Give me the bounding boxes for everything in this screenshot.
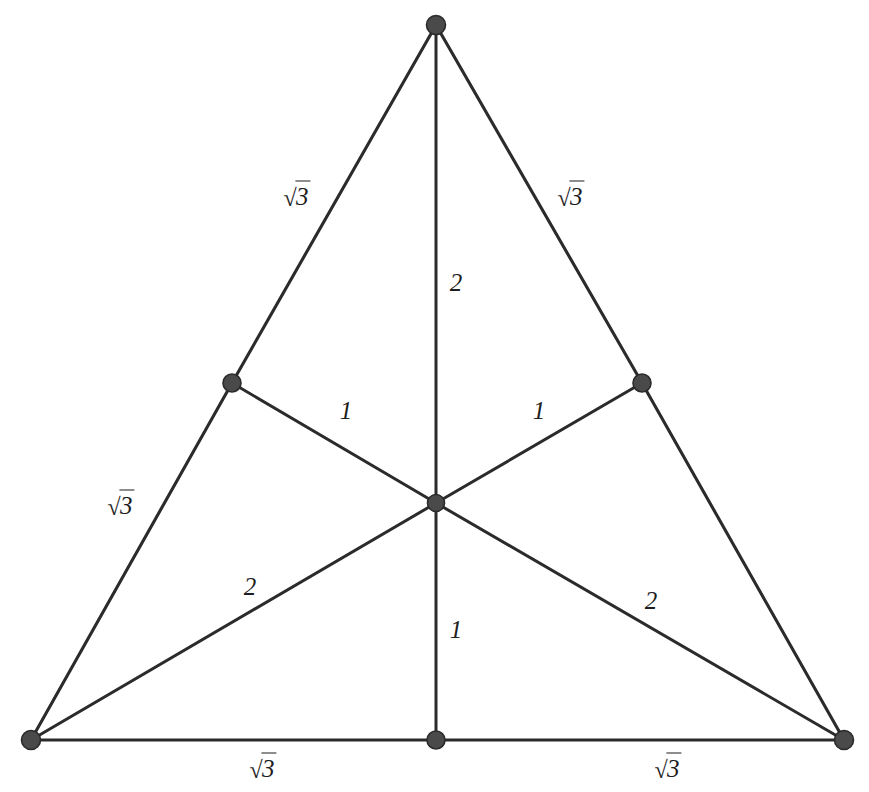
radicand-value: 3 (569, 181, 585, 210)
triangle-svg (0, 0, 869, 792)
label-median-bottom: 1 (450, 617, 463, 642)
label-side-right-upper: √3 (557, 184, 584, 209)
radical-sign-glyph: √ (107, 494, 120, 520)
segment-side-right-upper (436, 25, 642, 383)
radicand-value: 3 (119, 490, 135, 519)
label-side-left-upper: √3 (283, 184, 310, 209)
point-apex (427, 16, 446, 35)
radical-sign-glyph: √ (557, 185, 570, 211)
radical-sign-glyph: √ (654, 757, 667, 783)
label-side-left-lower: √3 (107, 493, 134, 518)
radicand-value: 3 (261, 753, 277, 782)
label-median-bl: 2 (244, 574, 257, 599)
radicand-value: 3 (295, 181, 311, 210)
point-bottom-left (22, 731, 41, 750)
point-left-mid (223, 374, 241, 392)
point-bottom-mid (427, 731, 445, 749)
radical-sign-glyph: √ (283, 185, 296, 211)
label-base-left: √3 (249, 756, 276, 781)
segment-median-bl-outer (31, 503, 436, 740)
segment-median-br-outer (436, 503, 844, 740)
radicand-value: 3 (666, 753, 682, 782)
point-bottom-right (835, 731, 854, 750)
label-median-right-in: 1 (533, 398, 546, 423)
point-right-mid (633, 374, 651, 392)
radical-sign-glyph: √ (249, 757, 262, 783)
segment-median-br-inner (232, 383, 436, 503)
segment-side-left-upper (232, 25, 436, 383)
label-median-top: 2 (450, 270, 463, 295)
label-median-left-in: 1 (340, 398, 353, 423)
geometry-figure: √3√3211√3221√3√3 (0, 0, 869, 792)
segment-side-right-lower (642, 383, 844, 740)
point-centroid (428, 495, 445, 512)
edges-group (31, 25, 844, 740)
label-base-right: √3 (654, 756, 681, 781)
label-median-br: 2 (645, 588, 658, 613)
segment-side-left-lower (31, 383, 232, 740)
